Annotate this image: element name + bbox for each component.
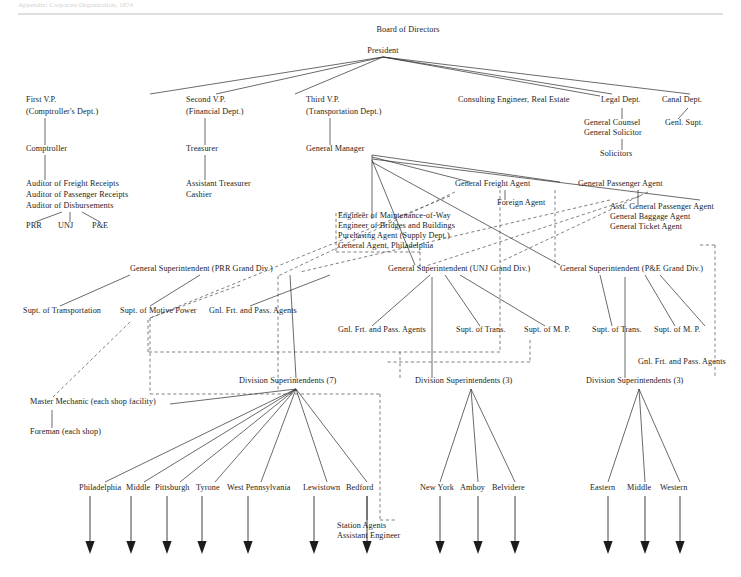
org-chart-canvas: Appendix: Corporate Organization, 1874 P… xyxy=(0,0,741,577)
org-node-gs-unj: General Superintendent (UNJ Grand Div.) xyxy=(388,264,530,273)
authority-line xyxy=(372,275,430,326)
org-node-station: Station Agents xyxy=(337,521,386,530)
division-arrow-head xyxy=(162,541,171,554)
division-label-prr-2: Pittsburgh xyxy=(155,483,190,492)
org-node-gfa: General Freight Agent xyxy=(455,179,531,188)
authority-line xyxy=(660,275,705,326)
org-node-solicitors: Solicitors xyxy=(600,149,632,158)
authority-line xyxy=(60,275,130,306)
org-node-gba: General Baggage Agent xyxy=(610,212,691,221)
division-arrow-head xyxy=(435,541,444,554)
authority-line xyxy=(215,389,296,482)
node-labels: Board of DirectorsPresidentFirst V.P.(Co… xyxy=(23,25,726,540)
org-node-agpa: Asst. General Passenger Agent xyxy=(610,202,714,211)
authority-line xyxy=(645,275,675,326)
org-node-aud2: Auditor of Passenger Receipts xyxy=(26,190,128,199)
authority-line xyxy=(440,389,471,482)
org-node-asstreas: Assistant Treasurer xyxy=(186,179,251,188)
division-arrow-head xyxy=(197,541,206,554)
org-node-legal: Legal Dept. xyxy=(601,95,641,104)
division-arrow-head xyxy=(510,541,519,554)
division-label-unj-2: Belvidere xyxy=(492,483,525,492)
org-node-supt-trans-prr: Supt. of Transportation xyxy=(23,306,101,315)
org-node-cashier: Cashier xyxy=(186,190,212,199)
org-node-vp3: Third V.P. xyxy=(306,95,340,104)
org-node-gfpa-pe: Gnl. Frt. and Pass. Agents xyxy=(638,357,726,366)
org-node-president: President xyxy=(367,46,399,55)
org-node-ds3b: Division Superintendents (3) xyxy=(586,376,684,385)
division-label-prr-1: Middle xyxy=(126,483,151,492)
division-arrow-head xyxy=(243,541,252,554)
authority-line xyxy=(372,155,560,182)
authority-line xyxy=(471,389,478,482)
org-node-canal: Canal Dept. xyxy=(662,95,702,104)
org-node-comptroller: Comptroller xyxy=(26,144,67,153)
org-node-treasurer: Treasurer xyxy=(186,144,218,153)
org-node-aud1: Auditor of Freight Receipts xyxy=(26,179,119,188)
authority-line xyxy=(471,389,515,482)
authority-line xyxy=(383,57,690,94)
staff-line xyxy=(52,322,130,398)
division-label-prr-5: Lewistown xyxy=(303,483,340,492)
org-node-aud3: Auditor of Disbursements xyxy=(26,201,113,210)
division-arrow-head xyxy=(675,541,684,554)
org-node-asstengineer: Assistant Engineer xyxy=(337,531,401,540)
org-node-mm: Master Mechanic (each shop facility) xyxy=(30,397,156,406)
division-label-prr-6: Bedford xyxy=(346,483,374,492)
division-label-prr-3: Tyrone xyxy=(196,483,220,492)
org-node-gs-prr: General Superintendent (PRR Grand Div.) xyxy=(130,264,273,273)
org-node-supt-trans-unj: Supt. of Trans. xyxy=(456,325,506,334)
division-label-pe-2: Western xyxy=(660,483,687,492)
org-node-gensolicitor: General Solicitor xyxy=(584,128,642,137)
org-node-gs-pe: General Superintendent (P&E Grand Div.) xyxy=(560,264,703,273)
authority-line xyxy=(639,389,645,482)
org-node-ds3a: Division Superintendents (3) xyxy=(415,376,513,385)
org-node-engmw: Engineer of Maintenance-of-Way xyxy=(338,211,452,220)
org-node-pe: P&E xyxy=(92,221,108,230)
org-node-gencounsel: General Counsel xyxy=(584,118,641,127)
authority-line xyxy=(150,275,200,306)
org-node-vp1: First V.P. xyxy=(26,95,57,104)
division-label-prr-0: Philadelphia xyxy=(79,483,121,492)
org-node-board: Board of Directors xyxy=(376,25,439,34)
org-node-supt-mp-unj: Supt. of M. P. xyxy=(524,325,570,334)
org-node-vp2sub: (Financial Dept.) xyxy=(186,107,244,116)
division-label-prr-4: West Pennsylvania xyxy=(227,483,291,492)
org-node-unj: UNJ xyxy=(58,221,74,230)
org-node-vp3sub: (Transportation Dept.) xyxy=(306,107,382,116)
division-arrow-head xyxy=(640,541,649,554)
org-node-gfpa-unj: Gnl. Frt. and Pass. Agents xyxy=(338,325,426,334)
org-node-vp1sub: (Comptroller's Dept.) xyxy=(26,107,98,116)
org-node-genlsupt: Genl. Supt. xyxy=(665,118,703,127)
org-chart-page: Appendix: Corporate Organization, 1874 P… xyxy=(0,0,741,577)
org-node-supt-mp-prr: Supt. of Motive Power xyxy=(120,306,197,315)
authority-line xyxy=(144,389,296,482)
authority-line xyxy=(295,57,383,94)
authority-line xyxy=(383,57,612,94)
division-label-pe-1: Middle xyxy=(627,483,652,492)
authority-line xyxy=(296,389,367,482)
org-node-prr: PRR xyxy=(26,221,42,230)
division-label-pe-0: Eastern xyxy=(590,483,615,492)
authority-line xyxy=(150,57,383,94)
org-node-vp2: Second V.P. xyxy=(186,95,226,104)
authority-line xyxy=(460,275,545,326)
org-node-gta: General Ticket Agent xyxy=(610,222,683,231)
org-node-gfpa-prr: Gnl. Frt. and Pass. Agents xyxy=(209,306,297,315)
authority-line xyxy=(170,389,296,404)
division-arrow-head xyxy=(473,541,482,554)
org-node-foreman: Foreman (each shop) xyxy=(30,427,101,436)
org-node-consulting: Consulting Engineer, Real Estate xyxy=(458,95,570,104)
org-node-genmanager: General Manager xyxy=(306,144,365,153)
division-arrow-head xyxy=(309,541,318,554)
division-arrow-head xyxy=(362,541,371,554)
authority-line xyxy=(383,57,600,96)
org-node-genagent: General Agent, Philadelphia xyxy=(338,241,434,250)
division-arrow-head xyxy=(603,541,612,554)
org-node-ds7: Division Superintendents (7) xyxy=(239,376,337,385)
org-node-foreign: Foreign Agent xyxy=(497,198,546,207)
org-node-gpa: General Passenger Agent xyxy=(578,179,663,188)
authority-line xyxy=(290,275,296,378)
authority-line xyxy=(445,275,480,326)
authority-line xyxy=(600,275,612,326)
